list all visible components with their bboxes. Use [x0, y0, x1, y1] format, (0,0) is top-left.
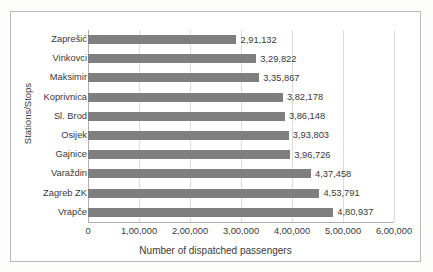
- y-tick-label: Zagreb ZK: [25, 184, 87, 203]
- bar[interactable]: [88, 93, 283, 102]
- gridline: [394, 30, 395, 222]
- chart-frame: Stations/Stops ZaprešićVinkovciMaksimirK…: [10, 11, 421, 262]
- bar-value-label: 3,86,148: [285, 111, 325, 121]
- x-tick-label: 2,00,000: [172, 226, 208, 236]
- y-tick-label: Gajnice: [25, 145, 87, 164]
- bar-row: 3,35,867: [88, 68, 394, 87]
- x-tick-label: 4,00,000: [274, 226, 310, 236]
- x-tick-label: 5,00,000: [325, 226, 361, 236]
- bar-value-label: 2,91,132: [236, 35, 276, 45]
- bar[interactable]: [88, 150, 290, 159]
- x-axis-title: Number of dispatched passengers: [11, 245, 420, 256]
- x-tick-label: 6,00,000: [376, 226, 412, 236]
- bar-row: 3,82,178: [88, 88, 394, 107]
- bar-value-label: 3,29,822: [256, 54, 296, 64]
- y-tick-label: Koprivnica: [25, 88, 87, 107]
- bar[interactable]: [88, 112, 285, 121]
- bar[interactable]: [88, 54, 256, 63]
- y-tick-label: Zaprešić: [25, 30, 87, 49]
- bar-value-label: 3,35,867: [259, 73, 299, 83]
- bar-series: 2,91,1323,29,8223,35,8673,82,1783,86,148…: [88, 30, 394, 222]
- y-tick-label: Vinkovci: [25, 49, 87, 68]
- bar[interactable]: [88, 131, 289, 140]
- y-tick-label: Maksimir: [25, 68, 87, 87]
- bar-value-label: 4,80,937: [333, 207, 373, 217]
- x-tick-label: 3,00,000: [223, 226, 259, 236]
- x-axis-tick-labels: 01,00,0002,00,0003,00,0004,00,0005,00,00…: [88, 226, 394, 240]
- bar-row: 4,80,937: [88, 203, 394, 222]
- bar-value-label: 3,96,726: [290, 150, 330, 160]
- bar-row: 3,29,822: [88, 49, 394, 68]
- bar-row: 3,93,803: [88, 126, 394, 145]
- y-tick-label: Varaždin: [25, 164, 87, 183]
- bar-row: 4,53,791: [88, 184, 394, 203]
- bar-value-label: 3,82,178: [283, 92, 323, 102]
- bar[interactable]: [88, 189, 319, 198]
- bar-value-label: 3,93,803: [289, 130, 329, 140]
- bar-row: 3,86,148: [88, 107, 394, 126]
- plot-area: 2,91,1323,29,8223,35,8673,82,1783,86,148…: [88, 30, 394, 222]
- bar[interactable]: [88, 169, 311, 178]
- bar[interactable]: [88, 208, 333, 217]
- x-axis-line: [88, 222, 394, 223]
- y-tick-label: Sl. Brod: [25, 107, 87, 126]
- bar-value-label: 4,53,791: [319, 188, 359, 198]
- y-axis-tick-labels: ZaprešićVinkovciMaksimirKoprivnicaSl. Br…: [25, 30, 87, 222]
- y-tick-label: Vrapče: [25, 203, 87, 222]
- bar-row: 3,96,726: [88, 145, 394, 164]
- x-tick-label: 0: [85, 226, 90, 236]
- bar[interactable]: [88, 73, 259, 82]
- bar-value-label: 4,37,458: [311, 169, 351, 179]
- y-tick-label: Osijek: [25, 126, 87, 145]
- bar-row: 4,37,458: [88, 164, 394, 183]
- bar-row: 2,91,132: [88, 30, 394, 49]
- x-tick-label: 1,00,000: [121, 226, 157, 236]
- bar[interactable]: [88, 35, 236, 44]
